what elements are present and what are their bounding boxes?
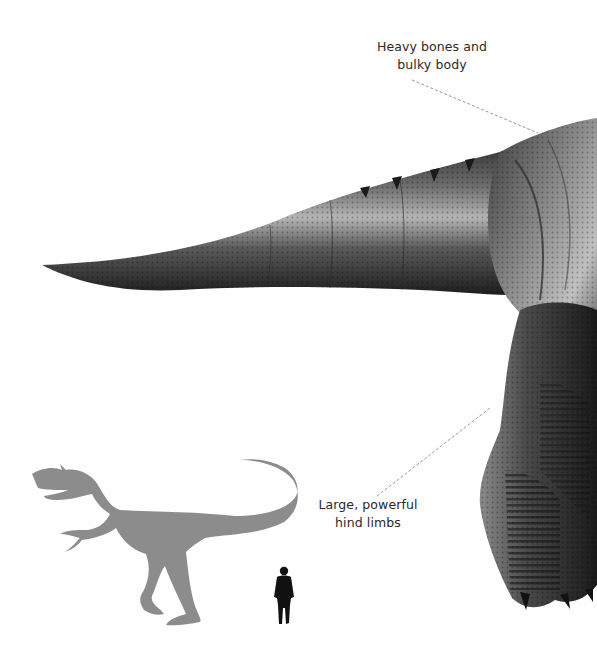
annotation-line: Large, powerful [318, 496, 418, 514]
trex-tail [42, 140, 560, 295]
dinosaur-illustration [0, 0, 597, 657]
theropod-size-silhouette [32, 459, 298, 625]
annotation-line: hind limbs [318, 514, 418, 532]
pointer-line-limbs [377, 408, 490, 496]
trex-hind-leg [480, 303, 597, 611]
human-size-silhouette [274, 567, 294, 624]
annotation-heavy-bones: Heavy bones and bulky body [362, 38, 502, 74]
pointer-line-bones [412, 80, 538, 133]
illustration-page: Heavy bones and bulky body Large, powerf… [0, 0, 597, 657]
annotation-line: bulky body [362, 56, 502, 74]
annotation-line: Heavy bones and [362, 38, 502, 56]
annotation-hind-limbs: Large, powerful hind limbs [318, 496, 418, 532]
